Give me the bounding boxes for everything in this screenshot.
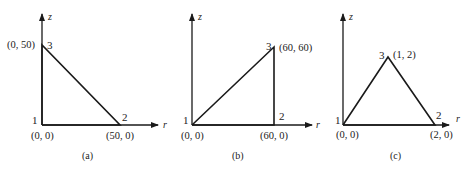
- node-1-label: 1: [183, 114, 189, 126]
- node-2-coord: (60, 0): [260, 130, 288, 142]
- r-axis-label: r: [316, 119, 320, 130]
- z-axis-label: z: [348, 11, 353, 22]
- node-3-coord: (1, 2): [393, 49, 416, 61]
- node-3-coord: (60, 60): [279, 42, 313, 54]
- node-2-label: 2: [279, 110, 285, 122]
- node-3-coord: (0, 50): [7, 39, 35, 51]
- node-2-label: 2: [122, 111, 128, 123]
- panel-caption: (b): [232, 150, 244, 162]
- node-1-coord: (0, 0): [31, 130, 54, 142]
- node-3-label: 3: [379, 49, 385, 61]
- z-axis-label: z: [47, 11, 52, 22]
- panel-caption: (a): [82, 150, 93, 162]
- r-axis-label: r: [163, 119, 167, 130]
- node-2-coord: (50, 0): [106, 130, 134, 142]
- triangle-element: [42, 45, 120, 125]
- z-axis-label: z: [197, 11, 202, 22]
- panel-caption: (c): [390, 150, 401, 162]
- node-1-coord: (0, 0): [336, 129, 359, 141]
- panel-b: z r 1 (0, 0) 3 (60, 60) 2 (60, 0) (b): [163, 11, 313, 162]
- triangle-element: [343, 57, 435, 125]
- panel-a: z 1 (0, 0) 3 (0, 50) 2 (50, 0) (a): [7, 11, 158, 162]
- node-3-label: 3: [266, 40, 272, 52]
- panel-c: z r r 1 (0, 0) 3 (1, 2) 2 (2, 0) (c): [316, 11, 460, 162]
- node-2-label: 2: [436, 109, 442, 121]
- triangle-element: [192, 47, 274, 125]
- node-1-coord: (0, 0): [181, 130, 204, 142]
- node-1-label: 1: [335, 114, 341, 126]
- node-3-label: 3: [47, 39, 53, 51]
- node-1-label: 1: [32, 114, 38, 126]
- r-axis-label: r: [456, 113, 460, 124]
- node-2-coord: (2, 0): [430, 129, 453, 141]
- triangular-elements-figure: z 1 (0, 0) 3 (0, 50) 2 (50, 0) (a) z r 1…: [0, 0, 474, 170]
